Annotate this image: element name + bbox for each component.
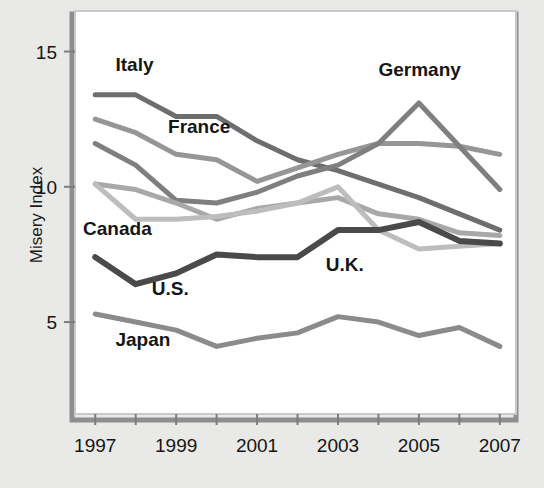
x-tick-label: 2001 (236, 435, 278, 456)
chart-canvas: 51015 199719992001200320052007 ItalyFran… (0, 0, 544, 488)
series-label-japan: Japan (115, 329, 170, 350)
x-tick-label: 1999 (155, 435, 197, 456)
series-label-us: U.S. (152, 278, 189, 299)
x-tick-label: 2003 (317, 435, 359, 456)
x-tick-label: 2007 (479, 435, 521, 456)
series-label-uk: U.K. (326, 254, 364, 275)
y-tick-label: 5 (46, 312, 57, 333)
y-tick-label: 15 (36, 42, 57, 63)
series-label-germany: Germany (378, 59, 461, 80)
x-tick-label: 1997 (74, 435, 116, 456)
y-axis-title: Misery Index (27, 166, 46, 263)
series-label-canada: Canada (83, 218, 152, 239)
x-tick-label: 2005 (398, 435, 440, 456)
misery-index-chart-figure: 51015 199719992001200320052007 ItalyFran… (0, 0, 544, 488)
series-label-italy: Italy (115, 54, 153, 75)
series-label-france: France (168, 116, 230, 137)
